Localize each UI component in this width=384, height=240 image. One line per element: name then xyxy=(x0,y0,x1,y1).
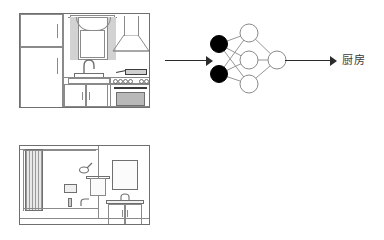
tub-faucet-icon xyxy=(79,198,92,208)
range-hood-canopy xyxy=(112,35,150,53)
hidden-node-3 xyxy=(240,75,258,93)
kitchen-scene-image xyxy=(19,13,150,108)
shower-curtain xyxy=(25,149,43,211)
bottle xyxy=(68,198,72,207)
pipeline-row-bathroom: 浴室 xyxy=(0,120,384,240)
input-node-1 xyxy=(211,36,228,53)
wall-divider-left xyxy=(63,14,64,108)
bathroom-scene-image xyxy=(19,145,150,225)
floor-line xyxy=(63,106,150,107)
range-hood-duct xyxy=(124,16,139,36)
vanity-faucet-icon xyxy=(116,193,134,201)
vanity-handle-right xyxy=(127,210,128,217)
hidden-node-2 xyxy=(240,51,258,69)
refrigerator-lower-door xyxy=(20,47,63,108)
shower-head-icon xyxy=(78,162,94,176)
output-label-kitchen: 厨房 xyxy=(342,55,366,66)
hidden-node-1 xyxy=(240,24,258,42)
burner-knob-4 xyxy=(128,79,133,84)
pipeline-row-kitchen: 厨房 xyxy=(0,0,384,120)
tub-wall-left xyxy=(23,149,24,211)
bathroom-floor-line xyxy=(20,218,150,219)
vanity-handle-left xyxy=(122,210,123,217)
oven-window xyxy=(116,92,145,106)
base-cabinet-handle-left xyxy=(82,92,83,100)
wall-picture xyxy=(64,184,77,193)
output-node-1 xyxy=(268,51,286,69)
oven-handle-bar xyxy=(114,87,147,89)
refrigerator-upper-handle xyxy=(57,24,58,38)
hanging-towel xyxy=(90,178,106,196)
tub-rim xyxy=(23,208,98,209)
base-cabinet-handle-right xyxy=(89,92,90,100)
arrow-network-to-label-kitchen xyxy=(285,56,337,66)
pan-on-stove xyxy=(125,69,147,75)
curtain-rail xyxy=(24,150,96,151)
mirror xyxy=(112,160,138,190)
figure-canvas: 厨房 xyxy=(0,0,384,240)
neural-network-kitchen xyxy=(205,22,295,98)
refrigerator-lower-handle xyxy=(57,58,58,74)
input-node-2 xyxy=(211,66,228,83)
window-pane xyxy=(80,30,105,58)
burner-knob-6 xyxy=(144,79,149,84)
